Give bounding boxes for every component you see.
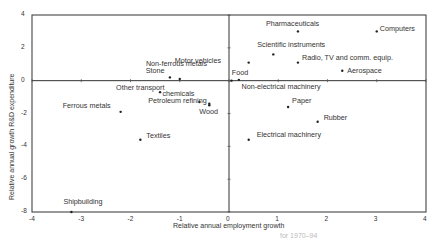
data-point <box>169 76 171 78</box>
point-label: Textiles <box>146 132 170 139</box>
data-point <box>316 121 318 123</box>
data-point <box>297 30 299 32</box>
data-point <box>70 211 72 213</box>
point-label: Scientific instruments <box>257 41 325 48</box>
y-tick-label: 2 <box>21 44 25 51</box>
point-label: Rubber <box>324 114 348 121</box>
data-point <box>248 61 250 63</box>
point-label: Paper <box>292 97 311 104</box>
x-axis-label: Relative annual employment growth <box>173 222 284 229</box>
point-label: Petroleum refining <box>148 97 206 104</box>
x-tick-label: -4 <box>29 216 35 223</box>
point-label: Aerospace <box>347 67 381 74</box>
point-label: Shipbuilding <box>63 198 102 205</box>
data-point <box>248 139 250 141</box>
point-label: Radio, TV and comm. equip. <box>302 54 393 61</box>
y-axis-label: Relative annual growth R&D expenditure <box>8 74 15 200</box>
point-label: Computers <box>380 25 415 32</box>
y-tick-label: -8 <box>21 208 27 215</box>
x-tick-label: -3 <box>78 216 84 223</box>
point-label: Stone <box>146 67 165 74</box>
point-label: Other transport <box>116 84 164 91</box>
data-point <box>376 30 378 32</box>
x-tick-label: 0 <box>226 216 230 223</box>
y-tick-label: 4 <box>21 11 25 18</box>
data-point <box>272 53 274 55</box>
y-tick-label: 0 <box>21 77 25 84</box>
data-point <box>230 79 232 81</box>
data-point <box>179 78 181 80</box>
data-point <box>139 139 141 141</box>
data-point <box>238 79 240 81</box>
y-tick-label: -6 <box>21 175 27 182</box>
point-label: Ferrous metals <box>63 102 111 109</box>
x-tick-label: -2 <box>128 216 134 223</box>
x-tick-label: 4 <box>423 216 427 223</box>
point-label: Pharmaceuticals <box>266 20 319 27</box>
point-label: Food <box>232 69 248 76</box>
x-tick-label: -1 <box>177 216 183 223</box>
caption-fragment: for 1970–94 <box>280 232 317 239</box>
data-point <box>119 111 121 113</box>
point-label: Electrical machinery <box>257 131 321 138</box>
y-tick-label: -2 <box>21 110 27 117</box>
y-tick-label: -4 <box>21 142 27 149</box>
x-tick-label: 1 <box>275 216 279 223</box>
data-point <box>341 70 343 72</box>
point-label: Wood <box>199 108 218 115</box>
data-point <box>208 104 210 106</box>
x-tick-label: 3 <box>374 216 378 223</box>
data-point <box>297 61 299 63</box>
data-point <box>287 106 289 108</box>
x-tick-label: 2 <box>325 216 329 223</box>
point-label: Non-electrical machinery <box>241 83 320 90</box>
